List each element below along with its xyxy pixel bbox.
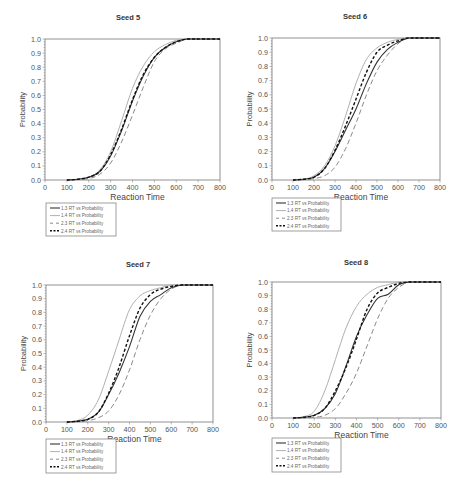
y-axis-label: Probability: [245, 91, 254, 126]
y-tick-label: 1.0: [31, 35, 41, 44]
y-tick-label: 0.4: [32, 363, 42, 372]
series-line-1-4: [293, 282, 441, 418]
y-tick-label: 0.7: [31, 77, 41, 86]
x-tick-label: 100: [287, 183, 299, 192]
x-tick-label: 100: [61, 183, 73, 192]
y-tick-label: 0.0: [31, 176, 41, 185]
x-tick-label: 200: [308, 421, 320, 430]
x-tick-label: 400: [127, 183, 139, 192]
y-tick-label: 0.4: [258, 359, 268, 368]
y-tick-label: 0.5: [31, 105, 41, 114]
chart-panel-3: Seed 70.00.10.20.30.40.50.60.70.80.91.00…: [19, 260, 219, 473]
x-tick-label: 800: [214, 183, 226, 192]
legend-label: 1.3 RT vs Probability: [61, 442, 104, 447]
x-tick-label: 700: [414, 421, 426, 430]
x-tick-label: 200: [82, 425, 94, 434]
legend-label: 2.4 RT vs Probability: [61, 465, 104, 470]
y-tick-label: 0.9: [258, 291, 268, 300]
legend: 1.3 RT vs Probability1.4 RT vs Probabili…: [46, 203, 116, 236]
x-tick-label: 500: [371, 183, 383, 192]
series-line-2-4: [67, 39, 220, 180]
y-tick-label: 0.6: [32, 335, 42, 344]
y-tick-label: 0.8: [258, 305, 268, 314]
series-line-1-3: [67, 39, 220, 180]
legend-label: 2.4 RT vs Probability: [61, 229, 104, 234]
y-tick-label: 0.3: [258, 373, 268, 382]
x-tick-label: 200: [83, 183, 95, 192]
series-line-1-3: [293, 282, 441, 418]
series-line-1-4: [293, 38, 440, 180]
y-tick-label: 1.0: [258, 34, 268, 43]
chart-panel-2: Seed 60.00.10.20.30.40.50.60.70.80.91.00…: [245, 12, 446, 231]
series-line-2-3: [293, 282, 441, 418]
x-tick-label: 300: [105, 183, 117, 192]
y-tick-label: 0.1: [32, 404, 42, 413]
y-tick-label: 0.5: [258, 346, 268, 355]
chart-panel-4: Seed 80.00.10.20.30.40.50.60.70.80.91.00…: [245, 258, 447, 472]
y-tick-label: 0.9: [258, 48, 268, 57]
legend-label: 2.3 RT vs Probability: [287, 456, 330, 461]
x-tick-label: 600: [393, 421, 405, 430]
x-axis-label: Reaction Time: [334, 430, 389, 440]
x-tick-label: 300: [103, 425, 115, 434]
y-tick-label: 0.8: [31, 63, 41, 72]
y-tick-label: 0.2: [31, 147, 41, 156]
y-tick-label: 0.7: [258, 76, 268, 85]
x-tick-label: 500: [148, 183, 160, 192]
chart-panel-1: Seed 50.00.10.20.30.40.50.60.70.80.91.00…: [18, 13, 226, 236]
legend-label: 1.3 RT vs Probability: [287, 441, 330, 446]
y-tick-label: 0.6: [31, 91, 41, 100]
y-tick-label: 0.9: [31, 49, 41, 58]
y-tick-label: 0.4: [258, 119, 268, 128]
x-tick-label: 600: [170, 183, 182, 192]
y-tick-label: 0.3: [258, 133, 268, 142]
y-tick-label: 0.8: [32, 308, 42, 317]
x-tick-label: 800: [435, 421, 447, 430]
x-tick-label: 200: [308, 183, 320, 192]
x-tick-label: 500: [372, 421, 384, 430]
x-tick-label: 400: [350, 183, 362, 192]
chart-title: Seed 8: [344, 258, 368, 267]
y-tick-label: 0.2: [258, 386, 268, 395]
x-tick-label: 700: [186, 425, 198, 434]
x-axis-label: Reaction Time: [110, 192, 165, 202]
x-tick-label: 0: [43, 183, 47, 192]
x-tick-label: 700: [192, 183, 204, 192]
y-tick-label: 1.0: [258, 278, 268, 287]
legend-label: 1.4 RT vs Probability: [61, 213, 104, 218]
x-tick-label: 500: [144, 425, 156, 434]
legend-label: 1.4 RT vs Probability: [287, 208, 330, 213]
y-axis-label: Probability: [19, 336, 28, 371]
x-tick-label: 400: [351, 421, 363, 430]
y-tick-label: 0.8: [258, 62, 268, 71]
legend: 1.3 RT vs Probability1.4 RT vs Probabili…: [46, 439, 116, 473]
x-tick-label: 0: [44, 425, 48, 434]
y-tick-label: 0.0: [258, 414, 268, 423]
y-tick-label: 0.6: [258, 332, 268, 341]
plot-frame: [46, 285, 213, 422]
x-tick-label: 800: [207, 425, 219, 434]
x-tick-label: 800: [434, 183, 446, 192]
series-line-2-3: [67, 285, 213, 422]
y-axis-label: Probability: [18, 92, 27, 127]
series-line-1-4: [67, 39, 220, 180]
series-line-1-3: [67, 285, 213, 422]
legend-label: 2.3 RT vs Probability: [287, 216, 330, 221]
x-axis-label: Reaction Time: [334, 192, 389, 202]
y-tick-label: 1.0: [32, 281, 42, 290]
x-tick-label: 600: [392, 183, 404, 192]
y-tick-label: 0.5: [258, 105, 268, 114]
chart-title: Seed 6: [343, 12, 367, 21]
y-tick-label: 0.0: [32, 418, 42, 427]
legend-label: 2.3 RT vs Probability: [61, 221, 104, 226]
plot-frame: [272, 282, 441, 418]
x-tick-label: 100: [287, 421, 299, 430]
x-tick-label: 0: [270, 421, 274, 430]
x-tick-label: 700: [413, 183, 425, 192]
y-tick-label: 0.7: [32, 322, 42, 331]
legend-label: 1.3 RT vs Probability: [61, 206, 104, 211]
figure-grid: Seed 50.00.10.20.30.40.50.60.70.80.91.00…: [0, 0, 464, 487]
series-line-2-4: [67, 285, 213, 422]
y-tick-label: 0.2: [258, 147, 268, 156]
y-tick-label: 0.4: [31, 119, 41, 128]
